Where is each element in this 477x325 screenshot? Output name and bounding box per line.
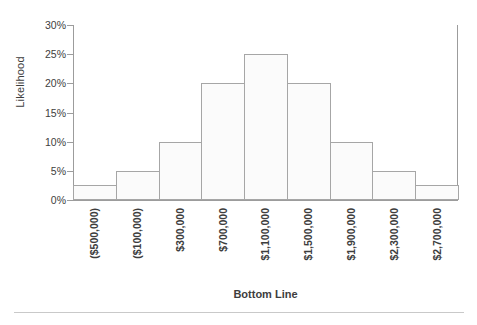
y-axis-tick-mark (67, 25, 73, 26)
x-axis-tick-slot: ($100,000) (116, 200, 159, 290)
bar (244, 54, 288, 200)
y-axis-tick-mark (67, 200, 73, 201)
x-axis-tick-slot: $1,500,000 (287, 200, 330, 290)
x-axis-tick-slot: $2,700,000 (415, 200, 458, 290)
y-axis-tick-mark (67, 142, 73, 143)
bar (372, 171, 416, 200)
x-axis-tick-labels: ($500,000)($100,000)$300,000$700,000$1,1… (73, 200, 458, 290)
histogram-figure: Likelihood 0%5%10%15%20%25%30% ($500,000… (0, 0, 477, 325)
x-axis-tick-label: ($100,000) (131, 208, 143, 259)
x-axis-tick-label: $700,000 (217, 208, 229, 252)
bar (287, 83, 331, 200)
y-axis-tick-label: 15% (32, 107, 66, 119)
x-axis-tick-label: $2,300,000 (388, 208, 400, 261)
y-axis-tick-mark (67, 113, 73, 114)
bar (73, 185, 117, 200)
x-axis-title: Bottom Line (73, 288, 458, 300)
y-axis-tick-label: 5% (32, 165, 66, 177)
x-axis-tick-slot: $1,100,000 (244, 200, 287, 290)
y-axis-tick-labels: 0%5%10%15%20%25%30% (28, 0, 66, 325)
y-axis-title: Likelihood (14, 32, 26, 132)
x-axis-tick-label: $300,000 (174, 208, 186, 252)
x-axis-tick-label: $1,500,000 (302, 208, 314, 261)
x-axis-tick-slot: $700,000 (201, 200, 244, 290)
bar-series (73, 25, 458, 200)
bar (330, 142, 374, 200)
y-axis-tick-label: 10% (32, 136, 66, 148)
y-axis-tick-label: 0% (32, 194, 66, 206)
y-axis-tick-label: 25% (32, 48, 66, 60)
x-axis-tick-label: $1,100,000 (259, 208, 271, 261)
bar (159, 142, 203, 200)
x-axis-tick-slot: $1,900,000 (330, 200, 373, 290)
y-axis-tick-label: 30% (32, 19, 66, 31)
y-axis-tick-mark (67, 54, 73, 55)
y-axis-tick-mark (67, 171, 73, 172)
x-axis-tick-slot: $300,000 (159, 200, 202, 290)
footer-divider (14, 312, 464, 313)
x-axis-tick-label: ($500,000) (88, 208, 100, 259)
bar (116, 171, 160, 200)
x-axis-tick-label: $2,700,000 (431, 208, 443, 261)
bar (201, 83, 245, 200)
y-axis-tick-label: 20% (32, 77, 66, 89)
x-axis-tick-slot: $2,300,000 (372, 200, 415, 290)
y-axis-tick-mark (67, 83, 73, 84)
x-axis-tick-label: $1,900,000 (345, 208, 357, 261)
bar (415, 185, 459, 200)
x-axis-tick-slot: ($500,000) (73, 200, 116, 290)
